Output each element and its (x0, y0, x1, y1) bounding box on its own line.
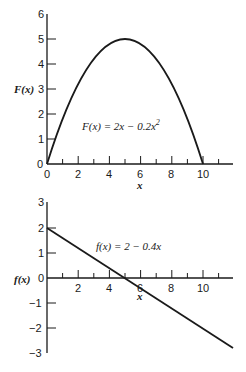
top-y-ticks (47, 39, 56, 139)
chart-canvas: 6 5 4 3 2 1 0 0 2 4 6 8 10 x F(x) (0, 0, 246, 372)
bottom-y-label-0: 0 (38, 272, 44, 284)
bottom-x-label-4: 4 (106, 282, 112, 294)
bottom-y-label-neg2: −2 (29, 322, 42, 334)
bottom-y-label-1: 1 (38, 247, 44, 259)
top-x-label-0: 0 (44, 168, 50, 180)
bottom-y-axis-title: f(x) (14, 273, 31, 286)
top-x-axis-title: x (136, 179, 143, 191)
top-x-label-4: 4 (106, 168, 112, 180)
top-x-ticks (63, 156, 219, 164)
top-equation: F(x) = 2x − 0.2x2 (81, 118, 160, 133)
top-y-label-2: 2 (38, 108, 44, 120)
top-y-axis-title: F(x) (13, 83, 34, 96)
top-y-label-3: 3 (38, 83, 44, 95)
bottom-x-label-8: 8 (168, 282, 174, 294)
bottom-x-ticks (63, 270, 219, 278)
bottom-y-label-neg3: −3 (29, 347, 42, 359)
top-chart: 6 5 4 3 2 1 0 0 2 4 6 8 10 x F(x) (13, 8, 233, 191)
top-y-label-4: 4 (38, 58, 44, 70)
bottom-chart: 3 2 1 0 −1 −2 −3 2 4 6 8 10 x f(x) (14, 196, 233, 359)
top-y-label-5: 5 (38, 33, 44, 45)
bottom-x-label-2: 2 (75, 282, 81, 294)
top-y-label-6: 6 (38, 8, 44, 20)
top-x-label-2: 2 (75, 168, 81, 180)
top-x-label-10: 10 (197, 168, 209, 180)
top-y-label-0: 0 (37, 158, 43, 170)
bottom-y-label-2: 2 (38, 222, 44, 234)
bottom-x-label-10: 10 (197, 282, 209, 294)
bottom-x-axis-title: x (136, 290, 143, 302)
top-x-label-8: 8 (168, 168, 174, 180)
top-y-label-1: 1 (38, 133, 44, 145)
bottom-equation: f(x) = 2 − 0.4x (96, 240, 161, 253)
bottom-y-label-3: 3 (38, 196, 44, 208)
bottom-y-label-neg1: −1 (29, 297, 42, 309)
top-curve (47, 39, 203, 164)
